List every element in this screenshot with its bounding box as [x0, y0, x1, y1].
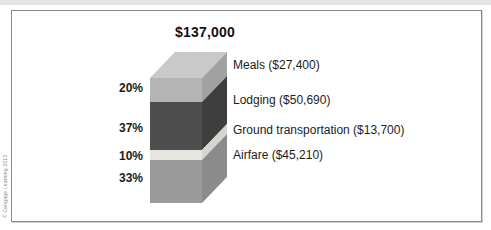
figure-canvas: $137,000 20% 37% 10% 33% Meals ($27,400)…	[0, 0, 491, 230]
stacked-bar-3d	[0, 0, 491, 230]
percent-label-airfare: 33%	[98, 172, 143, 185]
category-label-lodging: Lodging ($50,690)	[233, 93, 330, 107]
percent-label-lodging: 37%	[98, 122, 143, 135]
percent-label-ground: 10%	[98, 150, 143, 163]
category-label-ground: Ground transportation ($13,700)	[233, 123, 404, 137]
copyright-text: © Cengage Learning 2013	[2, 155, 8, 218]
bar-segment-lodging-front	[150, 102, 202, 150]
bar-segment-meals-front	[150, 78, 202, 102]
category-label-meals: Meals ($27,400)	[233, 58, 320, 72]
bar-segment-airfare-front	[150, 160, 202, 203]
bar-segment-ground-front	[150, 150, 202, 160]
percent-label-meals: 20%	[98, 82, 143, 95]
category-label-airfare: Airfare ($45,210)	[233, 148, 323, 162]
